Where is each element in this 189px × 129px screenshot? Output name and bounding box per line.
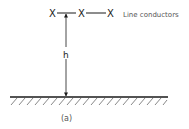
line-conductors-label: Line conductors: [123, 11, 179, 19]
conductor-1: X: [49, 8, 56, 19]
conductor-3: X: [107, 8, 114, 19]
ground-hatching: [11, 98, 167, 105]
figure-caption: (a): [61, 114, 72, 123]
height-label: h: [63, 50, 69, 60]
diagram-canvas: X X X Line conductors h (a): [0, 0, 189, 129]
conductor-2: X: [78, 8, 85, 19]
